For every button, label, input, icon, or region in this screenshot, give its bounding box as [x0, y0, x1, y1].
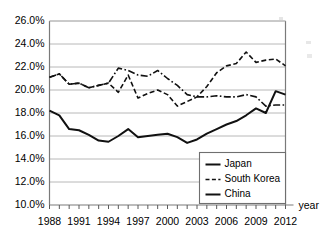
y-tick-label-8: 10.0%	[15, 198, 45, 210]
y-tick-label-7: 12.0%	[15, 175, 45, 187]
line-chart: 26.0%24.0%22.0%20.0%18.0%16.0%14.0%12.0%…	[0, 0, 334, 240]
x-tick-label-2000: 2000	[156, 215, 180, 227]
chart-canvas: 26.0%24.0%22.0%20.0%18.0%16.0%14.0%12.0%…	[0, 0, 334, 240]
x-tick-label-2012: 2012	[274, 215, 298, 227]
x-axis-title-text: year	[299, 199, 320, 211]
series-line-china	[50, 68, 286, 106]
x-tick-label-1991: 1991	[67, 215, 91, 227]
chart-legend: JapanSouth KoreaChina	[200, 153, 286, 204]
x-tick-label-2009: 2009	[244, 215, 268, 227]
legend-label-china: China	[225, 188, 252, 199]
x-tick-label-1997: 1997	[126, 215, 150, 227]
scan-artifacts	[279, 17, 312, 58]
y-tick-label-3: 20.0%	[15, 83, 45, 95]
y-tick-label-1: 24.0%	[15, 37, 45, 49]
y-tick-label-2: 22.0%	[15, 60, 45, 72]
y-tick-label-0: 26.0%	[15, 14, 45, 26]
x-tick-marks	[50, 205, 286, 209]
x-tick-label-1988: 1988	[38, 215, 62, 227]
x-tick-label-1994: 1994	[97, 215, 121, 227]
y-tick-label-6: 14.0%	[15, 152, 45, 164]
x-tick-label-2003: 2003	[185, 215, 209, 227]
x-axis-tick-labels: 198819911994199720002003200620092012	[38, 215, 298, 227]
legend-label-japan: Japan	[225, 158, 252, 169]
y-axis-tick-labels: 26.0%24.0%22.0%20.0%18.0%16.0%14.0%12.0%…	[15, 14, 45, 210]
x-axis-title: year	[299, 199, 320, 211]
y-tick-label-4: 18.0%	[15, 106, 45, 118]
legend-label-south-korea: South Korea	[225, 173, 281, 184]
data-series-group	[50, 52, 286, 143]
y-tick-label-5: 16.0%	[15, 129, 45, 141]
x-tick-label-2006: 2006	[215, 215, 239, 227]
series-line-japan	[50, 91, 286, 143]
